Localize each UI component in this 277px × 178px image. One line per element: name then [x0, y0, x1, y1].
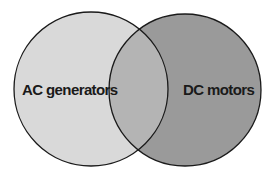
- set-label-ac-generators: AC generators: [22, 81, 118, 98]
- venn-diagram: AC generators DC motors: [0, 0, 277, 178]
- set-label-dc-motors: DC motors: [183, 81, 255, 98]
